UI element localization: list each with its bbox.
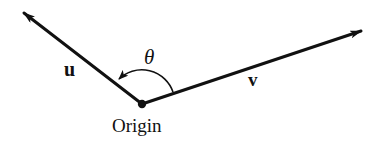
diagram-canvas	[0, 0, 383, 145]
vector-angle-diagram: u v θ Origin	[0, 0, 383, 145]
angle-theta-label: θ	[144, 47, 154, 68]
vector-u-arrow	[24, 13, 142, 104]
origin-point	[138, 100, 146, 108]
angle-arc-theta	[119, 70, 173, 92]
vector-v-arrow	[142, 31, 361, 104]
origin-label: Origin	[112, 116, 162, 135]
vector-v-label: v	[248, 70, 258, 89]
vector-u-label: u	[64, 59, 75, 79]
